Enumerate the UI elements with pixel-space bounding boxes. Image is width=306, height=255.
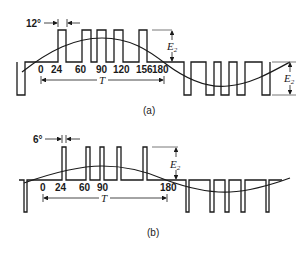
amplitude-label-neg-a: E2 (283, 72, 295, 86)
pulse-width-label-b: 6° (33, 134, 43, 145)
caption-a: (a) (143, 105, 155, 116)
amplitude-label-pos-a: E2 (166, 40, 178, 54)
amplitude-label-pos-b: E2 (169, 158, 181, 172)
pwm-waveform-diagram: 12° 0 24 60 90 120 156 180 T E2 E2 (a) (0, 0, 306, 255)
panel-a: 12° 0 24 60 90 120 156 180 T E2 E2 (a) (17, 18, 296, 116)
tick-label-24-b: 24 (55, 182, 67, 193)
panel-b: 6° 0 24 60 90 180 T E2 (b) (19, 134, 290, 238)
tick-label-180-a: 180 (152, 64, 169, 75)
tick-label-24-a: 24 (51, 64, 63, 75)
pwm-waveform-b (19, 147, 282, 212)
tick-label-120-a: 120 (113, 64, 130, 75)
tick-label-60-b: 60 (79, 182, 91, 193)
tick-label-156-a: 156 (136, 64, 153, 75)
caption-b: (b) (147, 227, 159, 238)
period-label-a: T (99, 74, 106, 86)
period-label-b: T (101, 192, 108, 204)
tick-label-60-a: 60 (75, 64, 87, 75)
tick-label-180-b: 180 (160, 182, 177, 193)
tick-label-0-a: 0 (38, 64, 44, 75)
pulse-width-label-a: 12° (26, 18, 41, 29)
tick-label-0-b: 0 (40, 182, 46, 193)
